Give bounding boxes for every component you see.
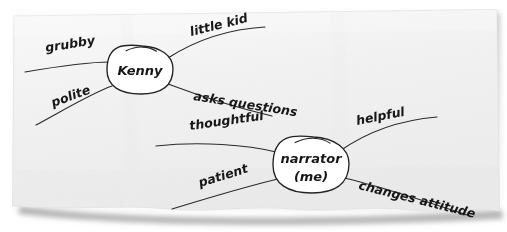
branch-label-group: grubbylittle kidpoliteasks questionsthou…: [44, 10, 477, 221]
node-kenny: Kenny: [107, 45, 173, 94]
branch-label-patient: patient: [196, 160, 251, 190]
branch-label-helpful: helpful: [355, 104, 407, 128]
branch-line-grubby: [25, 62, 110, 72]
node-label-kenny: Kenny: [117, 63, 163, 78]
branch-label-thoughtful: thoughtful: [188, 108, 265, 133]
branch-label-grubby: grubby: [44, 32, 97, 55]
node-label-secondary-narrator: (me): [294, 169, 328, 184]
branch-line-thoughtful: [156, 144, 276, 152]
node-label-narrator: narrator: [280, 151, 343, 166]
mindmap-screenshot: grubbylittle kidpoliteasks questionsthou…: [0, 0, 507, 232]
branch-label-changes-attitude: changes attitude: [357, 177, 477, 221]
branch-line-helpful: [340, 117, 437, 151]
node-narrator: narrator(me): [273, 136, 349, 193]
mindmap-drawing: grubbylittle kidpoliteasks questionsthou…: [0, 0, 507, 232]
branch-line-patient: [172, 179, 278, 209]
